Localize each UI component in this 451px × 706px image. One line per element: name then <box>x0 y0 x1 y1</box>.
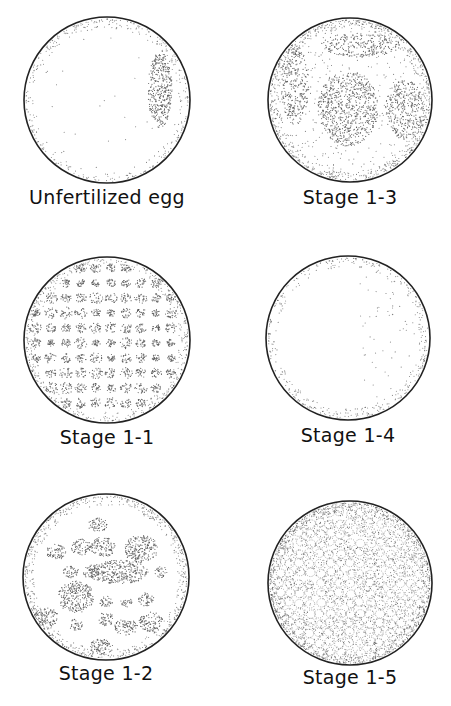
label-unfertilized-egg: Unfertilized egg <box>29 186 185 208</box>
label-stage-1-2: Stage 1-2 <box>59 662 154 684</box>
egg-stage-1-4 <box>266 256 430 420</box>
egg-stages-figure <box>0 0 451 706</box>
label-stage-1-3: Stage 1-3 <box>303 186 398 208</box>
label-stage-1-4: Stage 1-4 <box>301 424 396 446</box>
egg-stage-1-5 <box>264 499 435 668</box>
label-stage-1-1: Stage 1-1 <box>60 426 155 448</box>
egg-stage-1-2 <box>23 494 189 660</box>
egg-unfertilized <box>24 17 190 183</box>
egg-stage-1-1 <box>24 257 190 423</box>
egg-stage-1-3 <box>268 18 432 182</box>
label-stage-1-5: Stage 1-5 <box>303 666 398 688</box>
